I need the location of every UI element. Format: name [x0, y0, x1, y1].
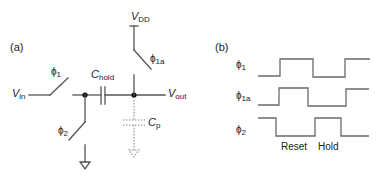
vdd-label: VDD [131, 11, 150, 24]
signal-phi2-sub: 2 [242, 128, 246, 137]
switch-phi1-icon [50, 78, 68, 95]
signal-label-phi1: ϕ1 [236, 60, 246, 72]
cp-label-main: C [148, 116, 156, 128]
vin-label-sub: in [19, 92, 25, 101]
vdd-label-sub: DD [138, 15, 150, 24]
vout-label: Vout [168, 88, 186, 101]
phase-label-hold: Hold [318, 142, 339, 152]
switch-phi2-icon [69, 122, 85, 140]
vout-label-sub: out [175, 92, 186, 101]
chold-label: Chold [91, 69, 114, 82]
phase-label-reset: Reset [281, 142, 307, 152]
switch-phi1a-label: ϕ1a [150, 54, 165, 66]
switch-phi1-label-sub: 1 [57, 70, 61, 79]
panel-b-label: (b) [215, 42, 228, 53]
signal-phi1-sub: 1 [242, 63, 246, 72]
switch-phi2-label-sub: 2 [64, 129, 68, 138]
vin-label: Vin [12, 88, 26, 101]
switch-phi1-label: ϕ1 [51, 67, 61, 79]
cp-ground-icon [129, 150, 139, 157]
signal-phi1a-sub: 1a [242, 94, 251, 103]
chold-label-sub: hold [99, 73, 114, 82]
panel-a-label: (a) [10, 42, 23, 53]
switch-phi1a-label-sub: 1a [156, 57, 165, 66]
waveform-phi1a [258, 88, 369, 106]
waveform-phi1 [258, 59, 370, 77]
switch-phi1a-icon [134, 50, 151, 69]
chold-label-main: C [91, 68, 99, 80]
cp-label: Cp [148, 117, 160, 130]
waveform-phi2 [258, 118, 369, 136]
signal-label-phi2: ϕ2 [236, 125, 246, 137]
ground-icon [80, 162, 90, 169]
cp-label-sub: p [156, 121, 160, 130]
signal-label-phi1a: ϕ1a [236, 91, 251, 103]
circuit-figure: (a) VDD Vin Vout Chold Cp ϕ1 ϕ2 ϕ1a (b) … [0, 0, 381, 178]
switch-phi2-label: ϕ2 [58, 126, 68, 138]
